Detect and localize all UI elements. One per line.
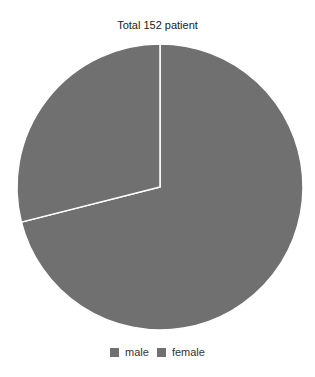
pie-slices bbox=[17, 44, 303, 330]
legend-item-male[interactable]: male bbox=[110, 346, 149, 358]
legend-label-female: female bbox=[172, 346, 205, 358]
legend-item-female[interactable]: female bbox=[157, 346, 205, 358]
legend-label-male: male bbox=[125, 346, 149, 358]
legend-swatch-female bbox=[157, 348, 166, 357]
legend: male female bbox=[0, 346, 315, 358]
legend-swatch-male bbox=[110, 348, 119, 357]
pie-chart bbox=[0, 0, 315, 377]
